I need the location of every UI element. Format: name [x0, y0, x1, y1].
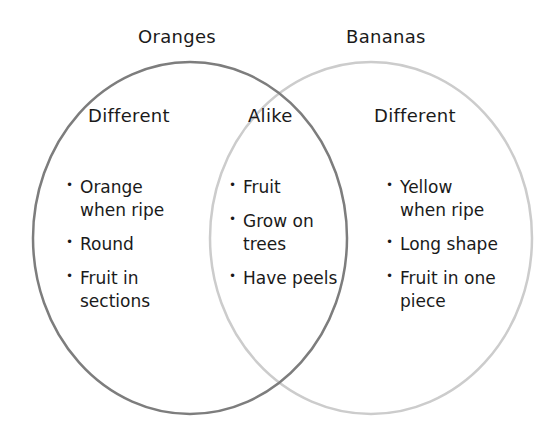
bananas-item-list: Yellow when ripe Long shape Fruit in one…: [386, 176, 498, 324]
list-item: Fruit in sections: [66, 267, 164, 313]
list-item: Long shape: [386, 233, 498, 256]
oranges-title: Oranges: [138, 26, 216, 47]
list-item: Orange when ripe: [66, 176, 164, 222]
bananas-title: Bananas: [346, 26, 426, 47]
alike-item-list: Fruit Grow on trees Have peels: [229, 176, 337, 301]
oranges-different-heading: Different: [88, 105, 170, 126]
list-item: Fruit: [229, 176, 337, 199]
list-item: Grow on trees: [229, 210, 337, 256]
list-item: Fruit in one piece: [386, 267, 498, 313]
alike-heading: Alike: [248, 105, 293, 126]
oranges-item-list: Orange when ripe Round Fruit in sections: [66, 176, 164, 324]
list-item: Round: [66, 233, 164, 256]
list-item: Have peels: [229, 267, 337, 290]
bananas-different-heading: Different: [374, 105, 456, 126]
list-item: Yellow when ripe: [386, 176, 498, 222]
